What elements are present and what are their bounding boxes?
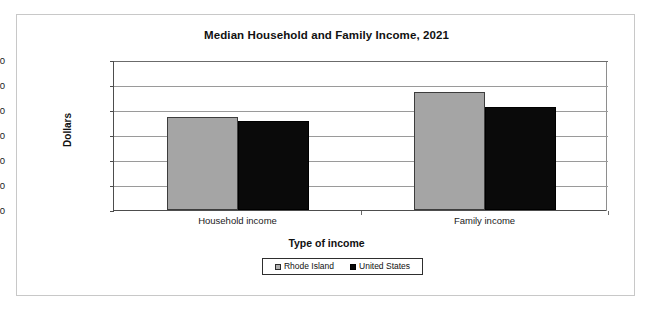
legend-label-rhode-island: Rhode Island bbox=[284, 262, 334, 271]
gray-square-marker-icon bbox=[275, 264, 281, 270]
bar-rhode-island bbox=[414, 92, 485, 210]
bar-rhode-island bbox=[167, 117, 238, 210]
y-tick-mark bbox=[110, 186, 114, 187]
y-tick-mark bbox=[110, 61, 114, 62]
chart-legend: Rhode Island United States bbox=[262, 258, 423, 275]
category-label: Family income bbox=[361, 215, 608, 226]
legend-entry-united-states: United States bbox=[350, 262, 410, 271]
legend-label-united-states: United States bbox=[359, 262, 410, 271]
y-tick-mark bbox=[110, 211, 114, 212]
y-tick-mark bbox=[110, 161, 114, 162]
chart-title: Median Household and Family Income, 2021 bbox=[17, 29, 636, 41]
y-tick-mark bbox=[110, 111, 114, 112]
bar-united-states bbox=[238, 121, 309, 210]
y-tick-label: 80,000 bbox=[0, 105, 5, 116]
x-axis-title: Type of income bbox=[17, 237, 636, 249]
legend-entry-rhode-island: Rhode Island bbox=[275, 262, 334, 271]
x-tick-mark bbox=[608, 211, 609, 215]
bar-united-states bbox=[485, 107, 556, 210]
black-square-marker-icon bbox=[350, 264, 356, 270]
y-tick-label: 60,000 bbox=[0, 130, 5, 141]
y-tick-mark bbox=[110, 136, 114, 137]
y-axis-title: Dollars bbox=[62, 100, 76, 160]
plot-area: 120,000100,00080,00060,00040,00020,0000H… bbox=[113, 61, 607, 211]
y-tick-label: 0 bbox=[0, 205, 5, 216]
y-tick-label: 100,000 bbox=[0, 80, 5, 91]
y-tick-mark bbox=[110, 86, 114, 87]
y-tick-label: 20,000 bbox=[0, 180, 5, 191]
gridline bbox=[114, 86, 608, 87]
y-tick-label: 40,000 bbox=[0, 155, 5, 166]
category-label: Household income bbox=[114, 215, 361, 226]
chart-screenshot: Median Household and Family Income, 2021… bbox=[0, 0, 652, 309]
gridline bbox=[114, 61, 608, 62]
y-tick-label: 120,000 bbox=[0, 55, 5, 66]
figure-frame: Median Household and Family Income, 2021… bbox=[16, 14, 635, 296]
